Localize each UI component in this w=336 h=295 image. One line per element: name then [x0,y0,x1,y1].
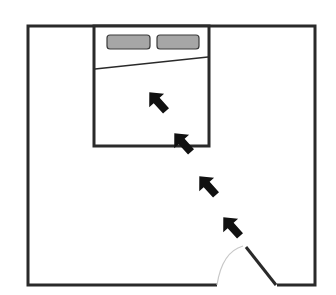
pillow-1 [107,35,150,49]
floor-plan-canvas [0,0,336,295]
path-arrow-3-icon [192,170,224,202]
floor-plan-diagram: Bedroom Bed Door Walking path [0,0,336,295]
pillow-2 [157,35,199,49]
door [217,246,276,285]
door-swing-arc [217,246,243,285]
path-arrow-4-icon [216,211,248,243]
door-leaf [246,247,276,285]
bed [94,26,209,146]
